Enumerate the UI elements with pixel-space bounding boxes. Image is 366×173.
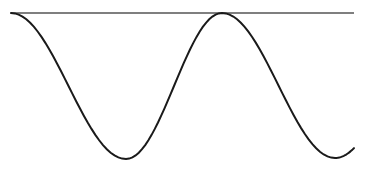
background [0,0,366,173]
wave-diagram [0,0,366,173]
